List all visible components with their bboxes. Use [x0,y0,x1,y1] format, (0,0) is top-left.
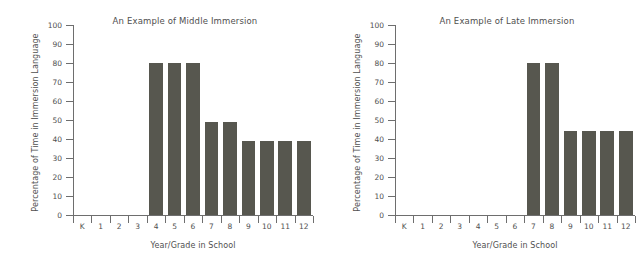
x-tick-label: K [72,222,92,231]
y-tick-mark [388,177,395,178]
bar [582,131,596,215]
x-tick-label: 12 [294,222,314,231]
y-tick-mark [66,215,73,216]
plot-area [73,25,313,215]
y-tick-label: 60 [362,97,384,106]
y-tick-mark [388,82,395,83]
x-tick-label: 8 [220,222,240,231]
x-tick-label: 8 [542,222,562,231]
figure-two-bar-charts: An Example of Middle Immersion Percentag… [0,0,643,269]
y-tick-label: 80 [40,59,62,68]
y-tick-label: 10 [40,192,62,201]
x-tick-label: 2 [431,222,451,231]
y-tick-label: 60 [40,97,62,106]
y-tick-label: 70 [362,78,384,87]
y-axis-label: Percentage of Time in Immersion Language [31,28,40,218]
x-tick-label: 12 [616,222,636,231]
bar [564,131,578,215]
bar [527,63,541,215]
x-tick-label: 2 [109,222,129,231]
x-tick-label: 7 [201,222,221,231]
chart-panel-middle-immersion: An Example of Middle Immersion Percentag… [0,0,321,269]
y-tick-mark [66,44,73,45]
y-tick-label: 80 [362,59,384,68]
x-axis-label: Year/Grade in School [73,241,313,250]
x-tick-label: 3 [450,222,470,231]
y-tick-label: 40 [40,135,62,144]
y-tick-mark [66,63,73,64]
bar [205,122,219,215]
y-tick-label: 50 [362,116,384,125]
x-tick-label: 4 [468,222,488,231]
x-tick-label: 6 [505,222,525,231]
y-tick-label: 0 [362,211,384,220]
y-tick-mark [66,82,73,83]
bar [168,63,182,215]
bar [149,63,163,215]
plot-area [395,25,635,215]
y-tick-label: 50 [40,116,62,125]
y-tick-label: 40 [362,135,384,144]
x-tick-label: 5 [487,222,507,231]
y-tick-mark [66,158,73,159]
bar [260,141,274,215]
y-tick-label: 20 [40,173,62,182]
y-tick-mark [388,215,395,216]
x-tick-label: 10 [257,222,277,231]
bar [242,141,256,215]
y-tick-mark [388,101,395,102]
chart-panel-late-immersion: An Example of Late Immersion Percentage … [322,0,643,269]
bar [223,122,237,215]
x-tick-label: K [394,222,414,231]
x-tick-label: 9 [560,222,580,231]
y-tick-mark [388,196,395,197]
bar [600,131,614,215]
y-tick-mark [388,25,395,26]
x-tick-label: 11 [597,222,617,231]
bar [278,141,292,215]
x-tick-label: 7 [523,222,543,231]
y-tick-mark [388,63,395,64]
y-tick-mark [388,44,395,45]
y-tick-label: 30 [362,154,384,163]
bar [619,131,633,215]
y-tick-label: 100 [362,21,384,30]
y-tick-label: 20 [362,173,384,182]
x-tick-label: 5 [165,222,185,231]
x-tick-label: 4 [146,222,166,231]
x-tick-label: 1 [413,222,433,231]
y-tick-mark [66,101,73,102]
y-tick-mark [66,120,73,121]
bar [186,63,200,215]
y-tick-label: 30 [40,154,62,163]
y-tick-label: 90 [362,40,384,49]
y-tick-mark [66,177,73,178]
bar [545,63,559,215]
y-tick-label: 90 [40,40,62,49]
y-tick-label: 100 [40,21,62,30]
x-tick-label: 6 [183,222,203,231]
x-axis-label: Year/Grade in School [395,241,635,250]
y-tick-mark [66,196,73,197]
y-tick-label: 0 [40,211,62,220]
y-tick-mark [66,139,73,140]
y-tick-label: 70 [40,78,62,87]
x-tick-label: 11 [275,222,295,231]
y-tick-mark [388,120,395,121]
y-tick-label: 10 [362,192,384,201]
x-tick-label: 1 [91,222,111,231]
x-tick-label: 10 [579,222,599,231]
y-tick-mark [388,158,395,159]
x-tick-label: 9 [238,222,258,231]
bar [297,141,311,215]
y-tick-mark [66,25,73,26]
y-tick-mark [388,139,395,140]
x-tick-label: 3 [128,222,148,231]
y-axis-label: Percentage of Time in Immersion Language [353,28,362,218]
